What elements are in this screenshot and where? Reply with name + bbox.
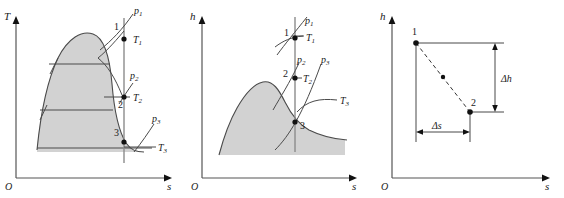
thermodynamic-diagram-figure: 1 2 3 p1 p2 p3 T1 T2 T3 [0,0,564,198]
hs-isotherm-T3 [297,99,337,112]
ts-pressure-label-2: p2 [129,70,139,83]
hs-diagram-panel: 1 2 3 p1 p2 p3 T1 T2 T3 [185,0,375,198]
hs-temperature-label-2: T2 [303,73,313,86]
hs-state-label-1: 1 [284,27,289,38]
hs-origin-label: O [191,181,198,192]
delta-state-point-2 [467,109,473,115]
hs-pressure-label-1: p1 [304,15,314,28]
ts-pressure-label-3: p3 [151,113,161,126]
delta-x-axis-label: s [545,180,549,192]
delta-y-axis-arrow [389,16,396,24]
hs-state-label-2: 2 [283,68,288,79]
ts-isobar-p1 [100,14,133,50]
hs-state-point-3 [292,119,297,124]
delta-s-arrow-left [416,129,423,135]
delta-s-label: Δs [431,120,442,131]
delta-origin-label: O [381,181,388,192]
delta-y-axis-label: h [380,10,386,22]
ts-state-point-3 [121,139,126,144]
delta-state-point-1 [413,40,419,46]
hs-pressure-label-3: p3 [320,54,330,67]
ts-temperature-label-3: T3 [158,142,168,155]
ts-diagram-svg: 1 2 3 p1 p2 p3 T1 T2 T3 [0,0,190,198]
ts-state-label-2: 2 [118,99,123,110]
hs-diagram-svg: 1 2 3 p1 p2 p3 T1 T2 T3 [185,0,375,198]
ts-diagram-panel: 1 2 3 p1 p2 p3 T1 T2 T3 [0,0,190,198]
ts-pressure-label-1: p1 [133,5,143,18]
delta-h-label: Δh [500,73,512,84]
hs-y-axis-label: h [190,10,196,22]
ts-state-label-3: 3 [114,127,119,138]
ts-state-label-1: 1 [114,21,119,32]
delta-h-arrow-up [492,43,498,50]
hs-curve-through-1 [275,36,303,47]
ts-origin-label: O [5,181,12,192]
delta-state-label-1: 1 [412,26,417,37]
hs-state-label-3: 3 [300,120,305,131]
hs-state-point-1 [292,35,297,40]
ts-temperature-label-2: T2 [133,92,143,105]
ts-state-point-1 [121,36,126,41]
delta-diagram-svg: 1 2 Δh Δs h s O [372,0,564,198]
hs-state-point-2 [292,75,297,80]
ts-y-axis-arrow [13,16,20,24]
delta-s-arrow-right [463,129,470,135]
delta-expansion-midpoint [441,75,445,79]
delta-diagram-panel: 1 2 Δh Δs h s O [372,0,564,198]
delta-h-arrow-down [492,105,498,112]
hs-saturation-region-fill [219,82,345,155]
ts-saturation-dome-fill [37,33,143,152]
hs-temperature-label-1: T1 [306,32,315,45]
ts-x-axis-label: s [167,180,171,192]
hs-x-axis-label: s [352,180,356,192]
hs-y-axis-arrow [199,16,206,24]
hs-temperature-label-3: T3 [340,95,350,108]
ts-temperature-label-1: T1 [133,34,142,47]
ts-y-axis-label: T [4,10,11,22]
delta-state-label-2: 2 [471,97,476,108]
